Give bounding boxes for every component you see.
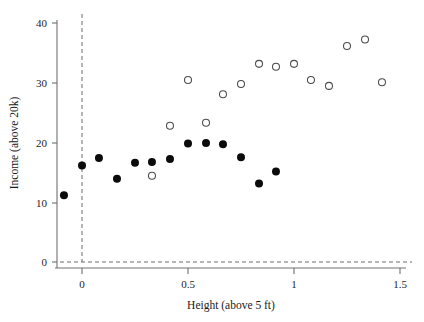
reference-lines	[60, 14, 412, 262]
data-point	[255, 179, 263, 187]
data-point	[203, 119, 210, 126]
data-point	[272, 168, 280, 176]
x-tick-label-0: 0	[79, 278, 85, 290]
data-point	[60, 191, 68, 199]
y-tick-labels: 40 30 20 10 0	[36, 17, 48, 268]
data-point	[362, 36, 369, 43]
data-point	[113, 175, 121, 183]
scatter-plot-figure: 40 30 20 10 0 0 0.5 1 1.5 Height (above …	[0, 0, 424, 322]
data-point	[78, 162, 86, 170]
data-point	[185, 76, 192, 83]
y-tick-label-0: 0	[42, 256, 48, 268]
series-filled	[60, 139, 280, 199]
data-point	[256, 60, 263, 67]
data-point	[95, 154, 103, 162]
series-open	[148, 36, 385, 179]
data-point	[344, 43, 351, 50]
y-axis-title: Income (above 20k)	[8, 97, 21, 190]
data-point	[238, 81, 245, 88]
data-point	[378, 79, 385, 86]
x-axis-title: Height (above 5 ft)	[187, 299, 275, 312]
data-point	[202, 139, 210, 147]
data-point	[219, 91, 226, 98]
data-point	[307, 76, 314, 83]
data-point	[184, 140, 192, 148]
data-point	[237, 153, 245, 161]
data-point	[272, 63, 279, 70]
data-point	[166, 122, 173, 129]
x-tick-label-1: 1	[291, 278, 297, 290]
x-tick-labels: 0 0.5 1 1.5	[79, 278, 407, 290]
y-tick-label-40: 40	[36, 17, 48, 29]
data-point	[166, 155, 174, 163]
data-point	[325, 82, 332, 89]
data-point	[148, 158, 156, 166]
x-tick-label-0.5: 0.5	[181, 278, 195, 290]
y-tick-label-20: 20	[36, 137, 48, 149]
x-tick-label-1.5: 1.5	[393, 278, 407, 290]
axes	[52, 20, 406, 274]
data-point	[148, 172, 155, 179]
y-tick-label-10: 10	[36, 197, 48, 209]
y-tick-label-30: 30	[36, 77, 48, 89]
data-point	[291, 60, 298, 67]
data-point	[219, 140, 227, 148]
plot-canvas: 40 30 20 10 0 0 0.5 1 1.5 Height (above …	[0, 0, 424, 322]
data-point	[131, 159, 139, 167]
data-points-layer	[60, 36, 386, 199]
